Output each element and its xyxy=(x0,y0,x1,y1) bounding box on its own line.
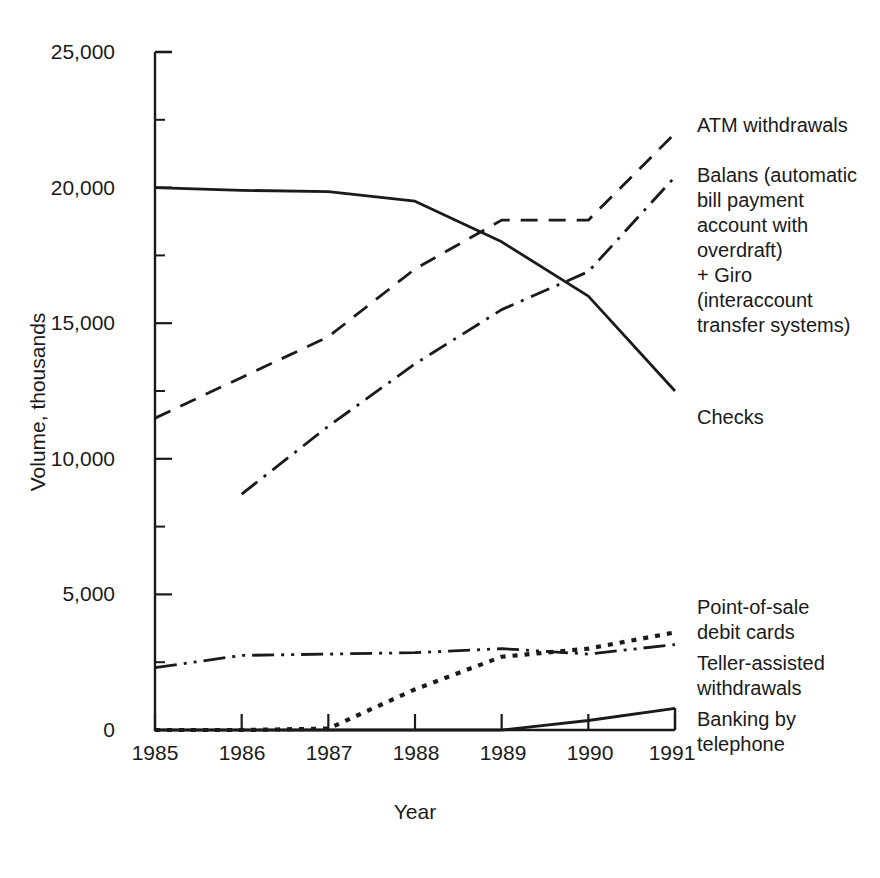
series-label-atm-withdrawals: ATM withdrawals xyxy=(697,113,848,138)
series-label-checks: Checks xyxy=(697,405,764,430)
series-line xyxy=(242,177,675,494)
series-label-teller-assisted-withdrawals: Teller-assisted withdrawals xyxy=(697,651,825,701)
series-line xyxy=(155,188,675,391)
series-label-balans-giro: Balans (automatic bill payment account w… xyxy=(697,163,857,338)
series-label-banking-by-telephone: Banking by telephone xyxy=(697,707,796,757)
series-lines xyxy=(155,133,675,730)
series-line xyxy=(155,133,675,418)
series-label-point-of-sale-debit-cards: Point-of-sale debit cards xyxy=(697,595,809,645)
axes-lines xyxy=(155,52,675,730)
chart-figure: Volume, thousands 25,000 20,000 15,000 1… xyxy=(0,0,880,878)
